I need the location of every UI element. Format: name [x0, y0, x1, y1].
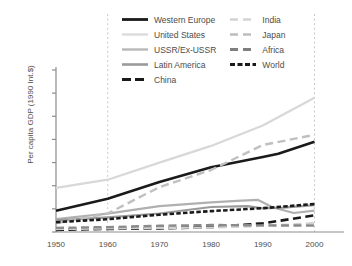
- x-tick-1950: 1950: [47, 240, 65, 249]
- x-tick-1990: 1990: [254, 240, 272, 249]
- chart-figure: Western Europe United States USSR/Ex-USS…: [0, 0, 352, 266]
- x-tick-1980: 1980: [202, 240, 220, 249]
- x-axis-tick-labels: 195019601970198019902000: [0, 0, 352, 266]
- x-tick-2000: 2000: [306, 240, 324, 249]
- x-tick-1960: 1960: [99, 240, 117, 249]
- x-tick-1970: 1970: [150, 240, 168, 249]
